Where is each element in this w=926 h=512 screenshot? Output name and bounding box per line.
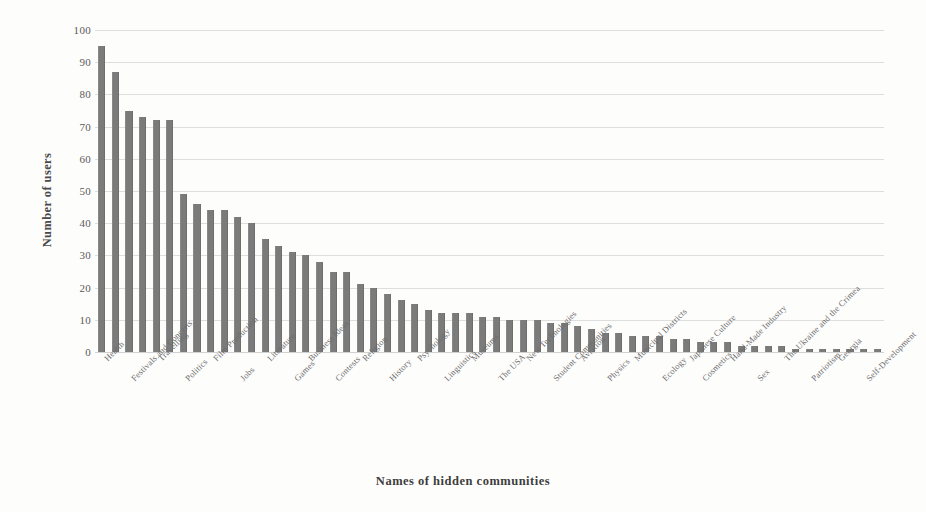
bar xyxy=(125,111,132,353)
bar xyxy=(275,246,282,352)
x-axis-tick-labels: HealthFestivals and ConcertsTravellingPo… xyxy=(95,354,884,464)
bar xyxy=(629,336,636,352)
bar xyxy=(139,117,146,352)
x-tick-label: Ecology xyxy=(660,355,688,383)
bar xyxy=(166,120,173,352)
bar xyxy=(357,284,364,352)
bar xyxy=(302,255,309,352)
bar xyxy=(452,313,459,352)
bar xyxy=(221,210,228,352)
bar xyxy=(670,339,677,352)
bar xyxy=(751,346,758,352)
y-tick-label: 50 xyxy=(79,185,91,197)
bar xyxy=(112,72,119,352)
y-tick-label: 90 xyxy=(79,56,91,68)
x-tick-label: Politics xyxy=(183,357,209,383)
x-tick-label: Sex xyxy=(755,366,772,383)
x-axis-title: Names of hidden communities xyxy=(0,474,926,489)
y-tick-label: 0 xyxy=(85,346,91,358)
bar xyxy=(874,349,881,352)
y-tick-label: 80 xyxy=(79,88,91,100)
bar xyxy=(466,313,473,352)
y-tick-label: 20 xyxy=(79,282,91,294)
bar xyxy=(765,346,772,352)
x-tick-label: The USA xyxy=(496,352,527,383)
bar xyxy=(860,349,867,352)
x-tick-label: Contests xyxy=(333,354,362,383)
bar xyxy=(683,339,690,352)
x-tick-label: Physics xyxy=(605,356,632,383)
y-axis-tick-labels: 0102030405060708090100 xyxy=(55,30,91,352)
bar xyxy=(207,210,214,352)
bar xyxy=(806,349,813,352)
bar xyxy=(248,223,255,352)
bar xyxy=(411,304,418,352)
bar xyxy=(98,46,105,352)
bar xyxy=(262,239,269,352)
y-tick-label: 10 xyxy=(79,314,91,326)
y-tick-label: 100 xyxy=(74,24,91,36)
plot-area xyxy=(95,30,884,352)
bar xyxy=(343,272,350,353)
bar xyxy=(153,120,160,352)
x-tick-label: Jobs xyxy=(238,365,256,383)
y-tick-label: 30 xyxy=(79,249,91,261)
bar xyxy=(615,333,622,352)
bar-chart: Number of users 0102030405060708090100 H… xyxy=(0,0,926,512)
bar xyxy=(520,320,527,352)
bar-series xyxy=(95,30,884,352)
y-tick-label: 40 xyxy=(79,217,91,229)
bar xyxy=(193,204,200,352)
bar xyxy=(778,346,785,352)
bar xyxy=(398,300,405,352)
bar xyxy=(819,349,826,352)
bar xyxy=(506,320,513,352)
y-axis-title: Number of users xyxy=(40,120,55,280)
x-tick-label: History xyxy=(387,357,413,383)
y-tick-label: 60 xyxy=(79,153,91,165)
y-tick-label: 70 xyxy=(79,121,91,133)
